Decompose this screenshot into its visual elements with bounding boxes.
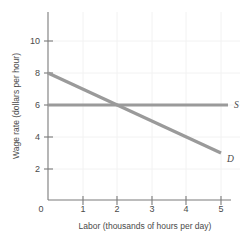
x-tick-label-4: 4 xyxy=(183,204,188,214)
y-tick-label-8: 8 xyxy=(35,68,40,78)
y-tick-label-2: 2 xyxy=(35,164,40,174)
wage-labor-chart: 10 8 6 4 2 0 1 2 3 4 5 S D Labor (thousa… xyxy=(0,0,252,238)
x-tick-label-5: 5 xyxy=(218,204,223,214)
demand-curve-label: D xyxy=(226,154,234,164)
y-axis-title: Wage rate (dollars per hour) xyxy=(11,53,21,159)
y-tick-label-4: 4 xyxy=(35,132,40,142)
x-tick-label-0: 0 xyxy=(38,204,43,214)
supply-curve-label: S xyxy=(234,100,239,110)
x-tick-label-1: 1 xyxy=(80,204,85,214)
y-tick-label-6: 6 xyxy=(35,100,40,110)
x-tick-label-2: 2 xyxy=(114,204,119,214)
x-axis-title: Labor (thousands of hours per day) xyxy=(79,221,212,231)
y-tick-label-10: 10 xyxy=(30,36,40,46)
chart-container: 10 8 6 4 2 0 1 2 3 4 5 S D Labor (thousa… xyxy=(0,0,252,238)
x-tick-label-3: 3 xyxy=(149,204,154,214)
